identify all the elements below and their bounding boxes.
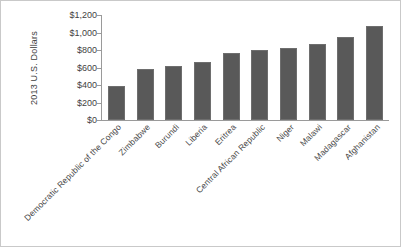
y-axis-tick-mark bbox=[97, 50, 101, 51]
bar-series bbox=[102, 15, 389, 120]
y-axis-tick-label: $400 bbox=[45, 80, 97, 90]
bar bbox=[137, 69, 154, 120]
bar bbox=[223, 53, 240, 120]
bar-chart-figure: 2013 U.S. Dollars $1,200$1,000$800$600$4… bbox=[0, 0, 401, 247]
bar bbox=[280, 48, 297, 120]
bar bbox=[309, 44, 326, 120]
y-axis-tick-labels: $1,200$1,000$800$600$400$200$0 bbox=[45, 9, 97, 125]
y-axis-tick-mark bbox=[97, 85, 101, 86]
y-axis-tick-mark bbox=[97, 120, 101, 121]
bar bbox=[194, 62, 211, 120]
bar bbox=[337, 37, 354, 120]
bar bbox=[366, 26, 383, 121]
y-axis-tick-mark bbox=[97, 68, 101, 69]
y-axis-tick-mark bbox=[97, 33, 101, 34]
y-axis-tick-label: $1,000 bbox=[45, 28, 97, 38]
bar bbox=[251, 50, 268, 120]
y-axis-tick-label: $1,200 bbox=[45, 10, 97, 20]
bar bbox=[165, 66, 182, 120]
y-axis-tick-label: $200 bbox=[45, 98, 97, 108]
y-axis-tick-label: $800 bbox=[45, 45, 97, 55]
y-axis-tick-label: $0 bbox=[45, 115, 97, 125]
bar bbox=[108, 86, 125, 120]
y-axis-tick-mark bbox=[97, 15, 101, 16]
y-axis-tick-label: $600 bbox=[45, 63, 97, 73]
y-axis-title: 2013 U.S. Dollars bbox=[29, 13, 43, 123]
y-axis-tick-mark bbox=[97, 103, 101, 104]
plot-area bbox=[101, 15, 389, 120]
